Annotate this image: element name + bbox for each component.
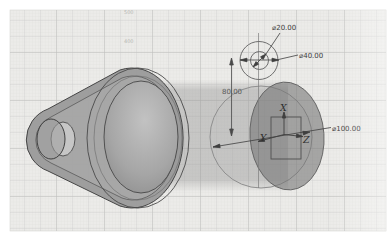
part-front-opening[interactable] <box>104 81 178 193</box>
axis-label-x: X <box>279 102 288 113</box>
hole-near-edge <box>37 119 65 159</box>
drawing-canvas[interactable]: 500 400 <box>0 0 391 242</box>
axis-label-z: Z <box>302 134 310 145</box>
cad-viewport[interactable]: 500 400 <box>0 0 391 242</box>
edge-fade <box>334 10 386 231</box>
part-hole[interactable] <box>37 119 75 159</box>
grid-scale-label-mid: 400 <box>124 38 134 44</box>
dimension-label-d20[interactable]: ⌀20.00 <box>272 24 296 32</box>
dimension-label-80[interactable]: 80.00 <box>222 88 242 96</box>
grid-scale-label-top: 500 <box>124 9 134 15</box>
dimension-label-d40[interactable]: ⌀40.00 <box>299 52 323 60</box>
